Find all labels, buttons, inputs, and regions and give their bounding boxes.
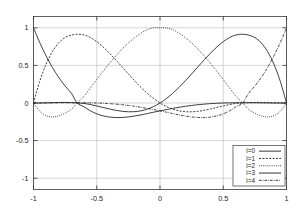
legend-label-0: i=0: [246, 147, 255, 154]
x-tick-labels-group: -1-0.500.51: [30, 194, 288, 203]
plot-svg: 10.50-0.5-1 -1-0.500.51 i=0i=1i=2i=3i=4: [0, 0, 306, 219]
legend-label-3: i=3: [246, 169, 255, 176]
y-tick-label: 0.5: [19, 61, 29, 70]
y-tick-label: 0: [25, 99, 29, 108]
legend: i=0i=1i=2i=3i=4: [233, 146, 285, 187]
x-tick-label: -0.5: [91, 194, 103, 203]
y-tick-labels-group: 10.50-0.5-1: [16, 23, 28, 182]
x-tick-label: 0.5: [218, 194, 228, 203]
y-tick-label: -1: [22, 174, 28, 183]
x-tick-label: 0: [158, 194, 162, 203]
chart-figure: 10.50-0.5-1 -1-0.500.51 i=0i=1i=2i=3i=4: [0, 0, 306, 219]
x-tick-label: 1: [285, 194, 289, 203]
y-tick-label: -0.5: [16, 136, 28, 145]
legend-label-2: i=2: [246, 162, 255, 169]
y-tick-label: 1: [25, 23, 29, 32]
legend-label-1: i=1: [246, 155, 255, 162]
x-tick-label: -1: [30, 194, 36, 203]
legend-label-4: i=4: [246, 177, 255, 184]
